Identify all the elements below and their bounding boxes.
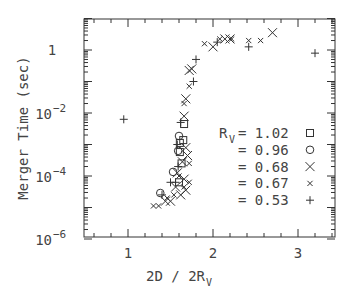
- legend-marker-circle: [306, 146, 314, 154]
- data-point-x-small: [156, 203, 161, 208]
- y-tick-exponent: −2: [53, 102, 66, 115]
- data-point-x-large: [220, 34, 229, 43]
- y-tick-label: 1: [48, 42, 56, 58]
- legend: RV= 1.02= 0.96= 0.68= 0.67= 0.53: [219, 125, 315, 208]
- data-point-x-large: [185, 66, 194, 75]
- data-point-x-small: [187, 161, 192, 166]
- data-point-plus: [172, 178, 180, 186]
- data-point-x-large: [176, 190, 185, 199]
- data-point-x-small: [182, 101, 187, 106]
- data-point-x-small: [171, 192, 176, 197]
- data-point-x-large: [183, 151, 192, 160]
- plot-frame: [84, 19, 335, 237]
- data-point-x-small: [217, 36, 222, 41]
- data-point-x-small: [246, 38, 251, 43]
- x-axis-label-subscript: V: [206, 277, 212, 288]
- data-point-plus: [158, 191, 166, 199]
- data-point-x-small: [187, 84, 192, 89]
- y-axis-label: Merger Time (sec): [15, 56, 31, 199]
- legend-marker-x-large: [306, 162, 315, 171]
- data-point-x-large: [209, 42, 218, 51]
- data-point-circle: [157, 189, 165, 197]
- legend-prefix: R: [219, 125, 228, 141]
- y-tick-label: 10: [35, 169, 52, 185]
- data-point-square: [181, 121, 188, 128]
- legend-marker-x-small: [307, 181, 312, 186]
- data-point-plus: [120, 115, 128, 123]
- y-tick-exponent: −4: [53, 165, 67, 178]
- legend-entry-label: = 0.68: [238, 159, 289, 175]
- y-tick-exponent: −6: [53, 228, 66, 241]
- y-tick-label: 10: [35, 232, 52, 248]
- data-point-plus: [245, 43, 253, 51]
- x-tick-label: 1: [124, 245, 132, 261]
- data-point-plus: [311, 49, 319, 57]
- scatter-chart: 123110−210−410−6 RV= 1.02= 0.96= 0.68= 0…: [0, 0, 357, 300]
- legend-entry-label: = 0.96: [238, 142, 289, 158]
- legend-prefix-subscript: V: [229, 134, 235, 145]
- legend-entry-label: = 0.53: [238, 192, 289, 208]
- data-point-x-large: [187, 64, 196, 73]
- legend-entry-label: = 0.67: [238, 175, 289, 191]
- axis-ticks: [84, 19, 335, 240]
- data-points: [120, 28, 319, 208]
- data-point-x-large: [226, 34, 235, 43]
- data-point-x-small: [258, 38, 263, 43]
- x-tick-label: 2: [209, 245, 217, 261]
- legend-marker-plus: [306, 196, 314, 204]
- data-point-x-large: [181, 143, 190, 152]
- data-point-plus: [192, 55, 200, 63]
- legend-entry-label: = 1.02: [238, 125, 289, 141]
- x-axis-label: 2D / 2R: [146, 268, 206, 284]
- legend-marker-square: [307, 130, 314, 137]
- y-tick-label: 10: [35, 106, 52, 122]
- plot-border: [84, 19, 335, 237]
- x-tick-label: 3: [294, 245, 302, 261]
- data-point-x-small: [202, 41, 207, 46]
- data-point-plus: [177, 118, 185, 126]
- data-point-x-small: [151, 203, 156, 208]
- data-point-x-large: [268, 28, 277, 37]
- data-point-circle: [175, 132, 183, 140]
